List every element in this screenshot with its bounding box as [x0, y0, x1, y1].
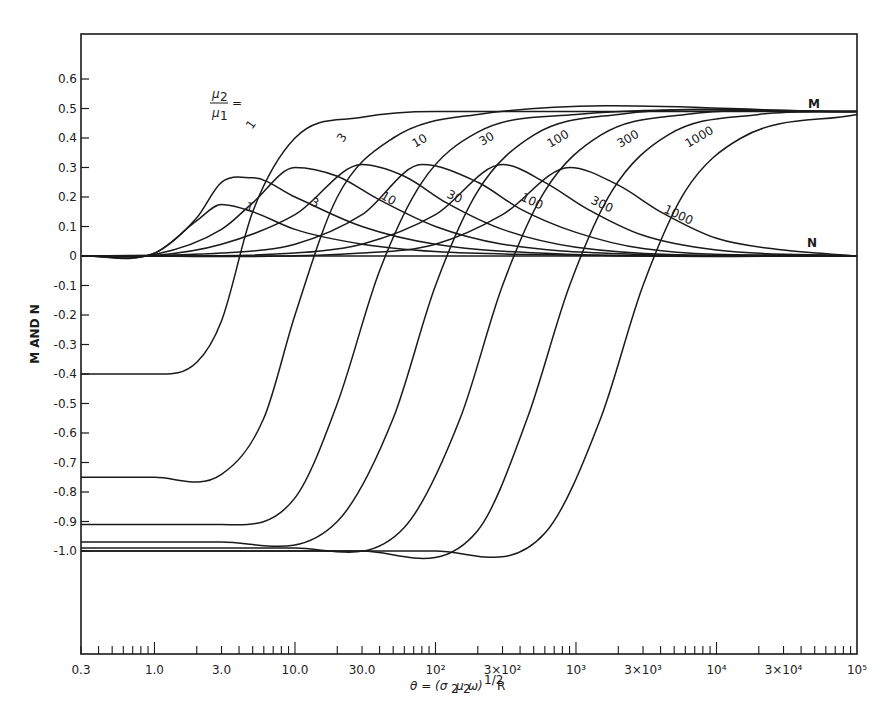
x-tick-label: 3×10³ — [624, 663, 662, 677]
y-tick-label: 0.5 — [58, 102, 77, 116]
m-curve-10 — [81, 110, 857, 525]
curve-label: 1 — [243, 117, 259, 131]
curve-label: 300 — [615, 127, 642, 151]
x-tick-label: 3×10⁴ — [765, 663, 803, 677]
data-curves — [81, 106, 857, 559]
y-axis-title: M AND N — [28, 304, 42, 364]
svg-text:θ = (σ: θ = (σ — [410, 679, 448, 693]
x-tick-label: 30.0 — [349, 663, 376, 677]
curve-label: N — [807, 236, 817, 250]
y-tick-label: 0.2 — [58, 190, 77, 204]
y-tick-label: -1.0 — [54, 544, 77, 558]
n-curve-3 — [81, 177, 857, 258]
chart-canvas: 0.60.50.40.30.20.10-0.1-0.2-0.3-0.4-0.5-… — [0, 0, 891, 722]
x-tick-label: 10.0 — [282, 663, 309, 677]
y-tick-label: 0 — [69, 249, 77, 263]
curve-label: 1000 — [662, 202, 696, 228]
n-curve-1000 — [81, 168, 857, 257]
plot-frame — [81, 34, 857, 654]
x-axis-title: θ = (σ 2 μ 2 ω) 1/2 R — [410, 673, 505, 696]
y-tick-label: -0.7 — [54, 456, 77, 470]
svg-text:2: 2 — [220, 90, 228, 104]
x-tick-label: 10⁴ — [706, 663, 726, 677]
svg-text:R: R — [497, 679, 505, 693]
curve-label: 10 — [410, 131, 430, 151]
svg-text:1: 1 — [220, 109, 228, 123]
curve-label: 10 — [379, 188, 399, 208]
svg-text:μ: μ — [211, 106, 220, 120]
svg-text:ω): ω) — [468, 679, 483, 693]
curve-label: 100 — [545, 127, 572, 151]
curve-label: 100 — [519, 190, 546, 212]
svg-text:μ: μ — [211, 87, 220, 101]
y-tick-label: -0.4 — [54, 367, 77, 381]
x-tick-label: 1.0 — [145, 663, 164, 677]
x-tick-label: 10³ — [566, 663, 586, 677]
x-tick-label: 0.3 — [71, 663, 90, 677]
y-tick-label: -0.5 — [54, 397, 77, 411]
m-curve-3 — [81, 106, 857, 482]
y-tick-label: 0.6 — [58, 72, 77, 86]
legend-title: μ 2 μ 1 = — [210, 87, 242, 123]
m-curve-30 — [81, 109, 857, 546]
x-tick-label: 10² — [425, 663, 445, 677]
y-tick-label: -0.2 — [54, 308, 77, 322]
svg-text:=: = — [232, 96, 242, 110]
m-curve-100 — [81, 110, 857, 552]
curve-label: 1000 — [683, 123, 716, 150]
curve-label: M — [808, 97, 820, 111]
y-tick-label: -0.8 — [54, 485, 77, 499]
m-curve-1000 — [81, 114, 857, 557]
x-tick-label: 10⁵ — [847, 663, 867, 677]
y-tick-label: 0.3 — [58, 161, 77, 175]
axis-ticks: 0.60.50.40.30.20.10-0.1-0.2-0.3-0.4-0.5-… — [54, 72, 868, 677]
x-tick-label: 3.0 — [212, 663, 231, 677]
y-tick-label: -0.6 — [54, 426, 77, 440]
curve-label: 3 — [334, 130, 350, 144]
y-tick-label: -0.9 — [54, 515, 77, 529]
y-tick-label: 0.1 — [58, 220, 77, 234]
y-tick-label: -0.3 — [54, 338, 77, 352]
y-tick-label: -0.1 — [54, 279, 77, 293]
y-tick-label: 0.4 — [58, 131, 77, 145]
m-curve-1 — [81, 111, 857, 374]
